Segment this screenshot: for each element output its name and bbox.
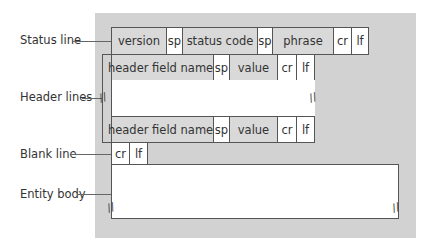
phrase-field: phrase [272, 27, 334, 55]
status-line-label: Status line [20, 33, 81, 47]
value-field: value [229, 54, 278, 81]
entity-body-box [111, 164, 399, 219]
cr-field: cr [111, 142, 130, 165]
cr-field: cr [277, 116, 297, 143]
header-field-name: header field name: [111, 116, 214, 143]
lf-field: lf [351, 27, 369, 55]
sp-field: sp [257, 27, 273, 55]
header-lines-gap [111, 80, 315, 117]
status-line-leader [72, 41, 111, 42]
blank-line-leader [70, 154, 111, 155]
status-code-field: status code [182, 27, 258, 55]
header-lines-label: Header lines [20, 90, 92, 104]
lf-field: lf [296, 116, 315, 143]
entity-body-label: Entity body [20, 187, 86, 201]
version-field: version [111, 27, 167, 55]
sp-field: sp [166, 27, 183, 55]
cr-field: cr [277, 54, 297, 81]
value-field: value [229, 116, 278, 143]
lf-field: lf [129, 142, 148, 165]
header-field-name: header field name: [111, 54, 214, 81]
sp-field: sp [213, 54, 230, 81]
lf-field: lf [296, 54, 315, 81]
blank-line-label: Blank line [20, 147, 77, 161]
sp-field: sp [213, 116, 230, 143]
cr-field: cr [333, 27, 352, 55]
entity-body-leader [77, 194, 111, 195]
